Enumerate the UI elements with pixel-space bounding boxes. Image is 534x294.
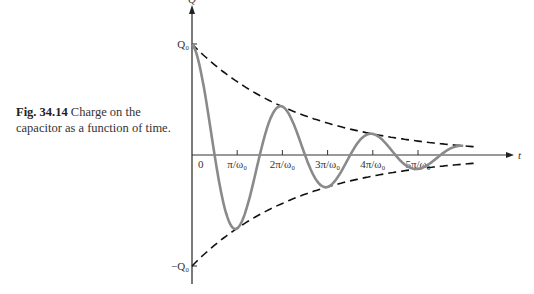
neg-q0-label: −Q₀ xyxy=(171,260,189,272)
q-axis-label: Q xyxy=(188,0,196,5)
x-tick-label: 0 xyxy=(198,158,204,170)
y-axis-arrow-icon xyxy=(189,5,195,14)
q0-label: Q₀ xyxy=(177,38,189,50)
x-tick-label: 3π/ω₀ xyxy=(315,158,340,170)
damped-oscillation-chart: 0π/ω₀2π/ω₀3π/ω₀4π/ω₀5π/ω₀tQQ₀−Q₀ xyxy=(0,0,534,294)
charge-curve xyxy=(192,44,463,229)
upper-envelope xyxy=(192,44,477,147)
t-axis-arrow-icon xyxy=(506,152,514,158)
x-tick-label: 2π/ω₀ xyxy=(270,158,295,170)
x-tick-label: π/ω₀ xyxy=(227,158,247,170)
x-tick-label: 4π/ω₀ xyxy=(360,158,385,170)
lower-envelope xyxy=(192,163,477,266)
t-axis-label: t xyxy=(518,149,522,161)
